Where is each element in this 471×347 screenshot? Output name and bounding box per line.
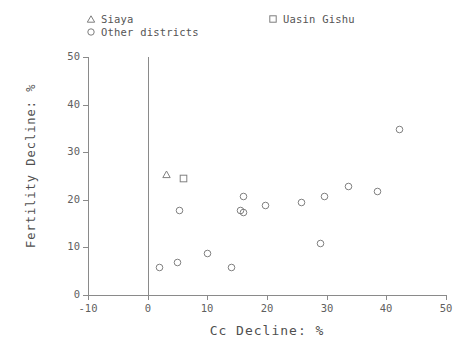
x-axis-tick-label: 50 bbox=[426, 302, 466, 314]
data-point-circle bbox=[261, 195, 270, 204]
data-point-circle bbox=[155, 257, 164, 266]
data-point-circle bbox=[395, 119, 404, 128]
plot-area: -100102030405001020304050 bbox=[0, 0, 471, 347]
x-axis-tick-label: -10 bbox=[68, 302, 108, 314]
data-point-circle bbox=[175, 200, 184, 209]
x-axis-tick-label: 30 bbox=[307, 302, 347, 314]
data-point-circle bbox=[239, 202, 248, 211]
y-axis-tick-label: 30 bbox=[42, 145, 80, 157]
x-axis-tick bbox=[267, 295, 268, 300]
data-point-circle bbox=[320, 186, 329, 195]
data-point-circle bbox=[173, 252, 182, 261]
data-point-square bbox=[179, 168, 188, 177]
y-axis-tick-label: 40 bbox=[42, 98, 80, 110]
x-axis-label: Cc Decline: % bbox=[197, 323, 337, 338]
data-point-circle bbox=[227, 257, 236, 266]
x-axis-tick-label: 10 bbox=[187, 302, 227, 314]
x-axis-tick bbox=[446, 295, 447, 300]
y-axis-tick bbox=[83, 247, 88, 248]
x-axis-tick-label: 40 bbox=[366, 302, 406, 314]
x-axis-tick bbox=[327, 295, 328, 300]
y-axis-tick bbox=[83, 57, 88, 58]
y-axis-tick bbox=[83, 200, 88, 201]
y-axis-spine bbox=[88, 57, 89, 296]
data-point-circle bbox=[203, 243, 212, 252]
data-point-circle bbox=[344, 176, 353, 185]
data-point-triangle bbox=[162, 164, 171, 173]
y-axis-tick bbox=[83, 295, 88, 296]
data-point-circle bbox=[373, 181, 382, 190]
x-axis-tick bbox=[148, 295, 149, 300]
y-axis-tick-label: 50 bbox=[42, 50, 80, 62]
x-axis-tick-label: 20 bbox=[247, 302, 287, 314]
vertical-reference-line bbox=[148, 57, 149, 295]
scatter-chart-figure: Siaya Other districts Uasin Gishu -10010… bbox=[0, 0, 471, 347]
y-axis-tick-label: 10 bbox=[42, 240, 80, 252]
y-axis-tick bbox=[83, 152, 88, 153]
x-axis-tick bbox=[386, 295, 387, 300]
y-axis-tick bbox=[83, 105, 88, 106]
y-axis-tick-label: 0 bbox=[42, 288, 80, 300]
x-axis-tick bbox=[207, 295, 208, 300]
data-point-circle bbox=[297, 192, 306, 201]
x-axis-tick-label: 0 bbox=[128, 302, 168, 314]
x-axis-tick bbox=[88, 295, 89, 300]
y-axis-label: Fertility Decline: % bbox=[24, 84, 38, 249]
data-point-circle bbox=[316, 233, 325, 242]
y-axis-tick-label: 20 bbox=[42, 193, 80, 205]
data-point-circle bbox=[239, 186, 248, 195]
